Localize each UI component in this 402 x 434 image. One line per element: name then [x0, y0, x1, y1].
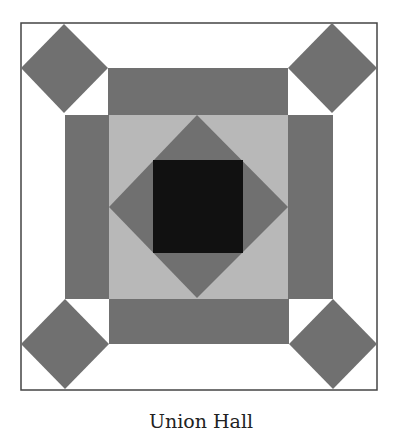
- band-top: [108, 68, 288, 115]
- core-square: [153, 160, 243, 253]
- band-right: [288, 115, 333, 299]
- band-bottom: [109, 299, 289, 344]
- quilt-block-diagram: [0, 0, 402, 400]
- diagram-caption: Union Hall: [0, 410, 402, 432]
- band-left: [65, 115, 109, 299]
